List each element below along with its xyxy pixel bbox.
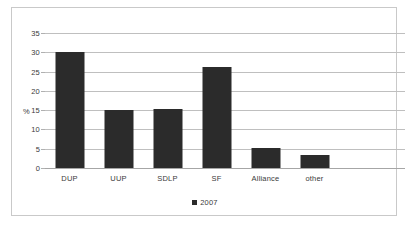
x-label-dup: DUP: [45, 174, 94, 183]
y-tick-mark-10: [41, 129, 45, 130]
x-label-sf: SF: [192, 174, 241, 183]
y-tick-mark-5: [41, 149, 45, 150]
bar-slot: [290, 33, 339, 168]
y-tick-label-0: 0: [36, 164, 40, 173]
y-tick-mark-15: [41, 110, 45, 111]
legend-label-2007: 2007: [200, 198, 218, 207]
bar-dup[interactable]: [55, 52, 84, 168]
chart-legend: 2007: [12, 198, 398, 207]
bar-sdlp[interactable]: [153, 109, 182, 168]
bar-sf[interactable]: [202, 67, 231, 168]
x-axis-category-labels: DUPUUPSDLPSFAllianceother: [45, 174, 405, 188]
bar-slot: [192, 33, 241, 168]
bar-alliance[interactable]: [251, 148, 280, 168]
bar-slot: [143, 33, 192, 168]
bar-uup[interactable]: [104, 110, 133, 168]
y-tick-label-15: 15: [31, 106, 40, 115]
chart-frame: 05101520253035 % DUPUUPSDLPSFAllianceoth…: [11, 7, 397, 216]
y-tick-mark-25: [41, 72, 45, 73]
x-label-sdlp: SDLP: [143, 174, 192, 183]
bar-slot: [45, 33, 94, 168]
y-tick-label-25: 25: [31, 67, 40, 76]
y-tick-mark-30: [41, 52, 45, 53]
y-tick-label-5: 5: [36, 144, 40, 153]
x-label-uup: UUP: [94, 174, 143, 183]
gridline-0: [45, 168, 405, 169]
bar-slot: [241, 33, 290, 168]
bar-slot: [94, 33, 143, 168]
bar-other[interactable]: [300, 155, 329, 168]
y-tick-label-10: 10: [31, 125, 40, 134]
bars-layer: [45, 33, 405, 168]
y-axis-title: %: [23, 107, 30, 116]
y-tick-mark-35: [41, 33, 45, 34]
y-tick-label-35: 35: [31, 29, 40, 38]
y-tick-mark-20: [41, 91, 45, 92]
x-label-other: other: [290, 174, 339, 183]
y-axis-tick-labels: 05101520253035: [12, 33, 40, 168]
y-tick-label-20: 20: [31, 86, 40, 95]
legend-swatch-2007: [192, 200, 197, 205]
y-tick-mark-0: [41, 168, 45, 169]
y-tick-label-30: 30: [31, 48, 40, 57]
x-label-alliance: Alliance: [241, 174, 290, 183]
